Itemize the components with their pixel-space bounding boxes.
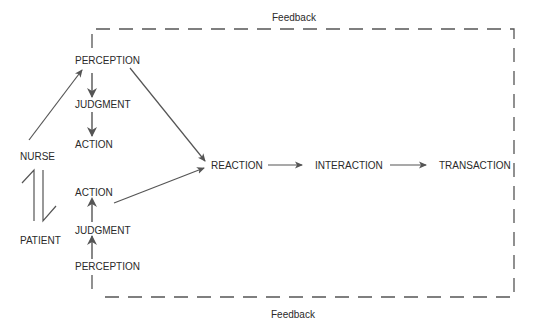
nurse-label: NURSE	[20, 152, 55, 162]
patient-action-label: ACTION	[75, 188, 113, 198]
transaction-label: TRANSACTION	[439, 161, 511, 171]
nurse-action-label: ACTION	[75, 140, 113, 150]
nurse-patient-exchange-arrows	[22, 170, 56, 221]
patient-label: PATIENT	[20, 236, 61, 246]
nurse-patient-interaction-diagram: Feedback Feedback PERCEPTION JUDGMENT AC…	[0, 0, 533, 323]
patient-judgment-label: JUDGMENT	[75, 226, 131, 236]
patient-perception-label: PERCEPTION	[75, 262, 140, 272]
feedback-top-label: Feedback	[272, 13, 316, 23]
nurse-judgment-label: JUDGMENT	[75, 100, 131, 110]
nurse-perception-label: PERCEPTION	[75, 56, 140, 66]
reaction-label: REACTION	[211, 161, 263, 171]
feedback-bottom-label: Feedback	[271, 310, 315, 320]
interaction-label: INTERACTION	[315, 161, 383, 171]
action-to-reaction-arrow	[114, 168, 204, 203]
perception-to-reaction-arrow	[130, 68, 205, 161]
